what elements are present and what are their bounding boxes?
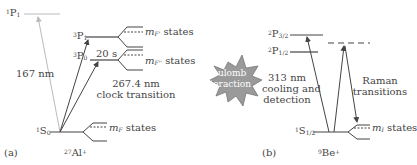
- mf-fan-1s0: [83, 123, 107, 141]
- lifetime-label: 20 s: [96, 48, 117, 59]
- label-167nm: 167 nm: [16, 68, 54, 79]
- mf-dprime-states-label: mF'' states: [145, 55, 195, 66]
- mi-fan: [348, 125, 370, 139]
- arrow-raman-up: [334, 46, 344, 132]
- mf-states-label: mF states: [109, 122, 156, 133]
- cooling-detection-label: 313 nmcooling anddetection: [262, 72, 312, 105]
- panel-a-tag: (a): [4, 147, 18, 158]
- al-ion-label: 27Al+: [64, 147, 87, 158]
- coulomb-interaction-label: Coulombinteraction: [186, 68, 266, 90]
- label-3p1: 3P1: [73, 30, 87, 41]
- mi-states-label: mI states: [372, 122, 417, 133]
- raman-transitions-label: Ramantransitions: [350, 75, 410, 97]
- mf-fan-3p0: [118, 50, 143, 70]
- panel-b-tag: (b): [262, 147, 276, 158]
- label-2p12: 2P1/2: [268, 45, 288, 56]
- mf-fan-3p1: [118, 27, 143, 47]
- label-3p0: 3P0: [73, 50, 87, 61]
- mf-prime-states-label: mF' states: [145, 26, 194, 37]
- clock-transition-label: 267.4 nmclock transition: [96, 78, 176, 100]
- label-1s0: 1S0: [36, 125, 51, 136]
- label-1p1: 1P1: [6, 7, 20, 18]
- label-2s12: 1S1/2: [295, 125, 315, 136]
- label-2p32: 2P3/2: [268, 28, 288, 39]
- arrow-clock: [60, 62, 98, 132]
- be-ion-label: 9Be+: [318, 147, 340, 158]
